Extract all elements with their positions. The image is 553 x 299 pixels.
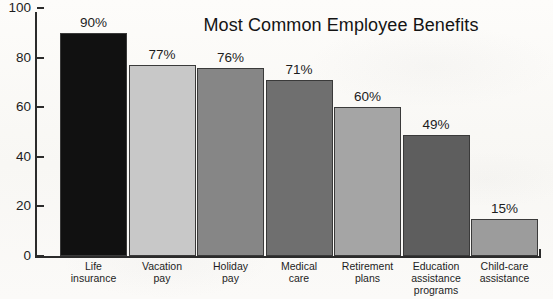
- bar-value-label: 71%: [260, 63, 339, 77]
- bar: [334, 107, 401, 256]
- bar: [471, 219, 538, 256]
- bar: [403, 135, 470, 256]
- bar: [129, 65, 196, 256]
- category-label: Child-care assistance: [461, 261, 548, 285]
- bar: [266, 80, 333, 256]
- bar-chart-figure: Most Common Employee Benefits 0204060801…: [0, 0, 553, 299]
- bar-value-label: 15%: [465, 202, 544, 216]
- bars-layer: 90%Life insurance77%Vacation pay76%Holid…: [0, 0, 553, 299]
- bar-value-label: 90%: [54, 16, 133, 30]
- bar-value-label: 49%: [397, 118, 476, 132]
- bar: [60, 33, 127, 256]
- bar-value-label: 76%: [191, 51, 270, 65]
- bar: [197, 68, 264, 256]
- bar-value-label: 77%: [123, 48, 202, 62]
- bar-value-label: 60%: [328, 90, 407, 104]
